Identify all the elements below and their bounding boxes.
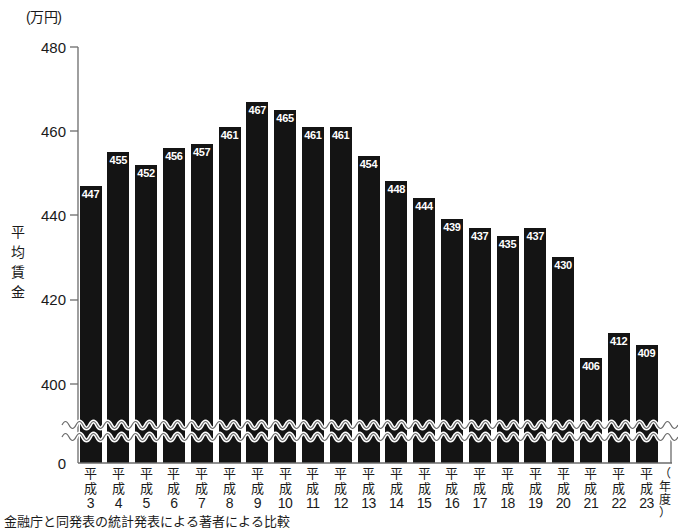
bar-22: 412: [608, 333, 630, 463]
x-tick-era-char-2: 成: [133, 481, 159, 496]
bar-15: 444: [413, 198, 435, 463]
bar-8: 461: [219, 127, 241, 463]
x-tick-era-char-1: 平: [606, 466, 632, 481]
x-tick-era-char-2: 成: [244, 481, 270, 496]
bar-23: 409: [636, 345, 658, 463]
bar-13: 454: [358, 156, 380, 463]
x-tick-era-char-2: 成: [328, 481, 354, 496]
x-axis-unit-label: （ 年 度 ）: [655, 468, 675, 520]
bar-value-label: 452: [135, 167, 157, 179]
bar-value-label: 461: [302, 129, 324, 141]
x-tick-era-char-1: 平: [522, 466, 548, 481]
y-tick-label-400: 400: [22, 377, 66, 392]
bar-value-label: 454: [358, 158, 380, 170]
x-tick-label-9: 平成9: [244, 466, 270, 511]
x-tick-era-char-2: 成: [189, 481, 215, 496]
x-tick-era-char-2: 成: [606, 481, 632, 496]
bar-value-label: 447: [80, 188, 102, 200]
x-tick-era-char-1: 平: [578, 466, 604, 481]
plot-area: 4474554524564574614674654614614544484444…: [78, 40, 674, 470]
x-tick-year-number: 16: [439, 496, 465, 511]
x-tick-label-11: 平成11: [300, 466, 326, 511]
x-tick-era-char-2: 成: [383, 481, 409, 496]
bar-value-label: 457: [191, 146, 213, 158]
bar-value-label: 437: [524, 230, 546, 242]
x-tick-year-number: 18: [495, 496, 521, 511]
x-tick-era-char-2: 成: [495, 481, 521, 496]
x-tick-year-number: 3: [78, 496, 104, 511]
bar-value-label: 461: [219, 129, 241, 141]
y-axis-title-char-1: 平: [8, 222, 28, 242]
bar-16: 439: [441, 219, 463, 463]
bar-21: 406: [580, 358, 602, 463]
x-tick-year-number: 8: [217, 496, 243, 511]
x-tick-year-number: 13: [356, 496, 382, 511]
x-tick-era-char-2: 成: [161, 481, 187, 496]
x-tick-era-char-1: 平: [161, 466, 187, 481]
y-axis-title: 平 均 賃 金: [8, 222, 28, 302]
y-axis-unit-label: (万円): [26, 6, 61, 26]
x-tick-era-char-1: 平: [550, 466, 576, 481]
x-tick-label-20: 平成20: [550, 466, 576, 511]
x-tick-year-number: 19: [522, 496, 548, 511]
x-tick-label-14: 平成14: [383, 466, 409, 511]
y-axis-title-char-2: 均: [8, 242, 28, 262]
bar-value-label: 439: [441, 221, 463, 233]
x-tick-year-number: 20: [550, 496, 576, 511]
y-tick-label-480: 480: [22, 40, 66, 55]
x-tick-label-15: 平成15: [411, 466, 437, 511]
x-tick-label-10: 平成10: [272, 466, 298, 511]
x-tick-label-8: 平成8: [217, 466, 243, 511]
x-tick-era-char-2: 成: [550, 481, 576, 496]
y-tick-label-460: 460: [22, 124, 66, 139]
x-tick-year-number: 9: [244, 496, 270, 511]
bar-10: 465: [274, 110, 296, 463]
x-tick-year-number: 15: [411, 496, 437, 511]
x-tick-label-21: 平成21: [578, 466, 604, 511]
bar-value-label: 437: [469, 230, 491, 242]
x-tick-label-22: 平成22: [606, 466, 632, 511]
bar-value-label: 435: [497, 238, 519, 250]
x-tick-era-char-1: 平: [133, 466, 159, 481]
x-tick-era-char-2: 成: [411, 481, 437, 496]
bar-18: 435: [497, 236, 519, 463]
x-tick-year-number: 6: [161, 496, 187, 511]
x-tick-era-char-1: 平: [189, 466, 215, 481]
bar-value-label: 448: [385, 183, 407, 195]
bar-value-label: 465: [274, 112, 296, 124]
x-tick-year-number: 17: [467, 496, 493, 511]
x-tick-label-4: 平成4: [105, 466, 131, 511]
x-tick-year-number: 10: [272, 496, 298, 511]
x-tick-label-3: 平成3: [78, 466, 104, 511]
x-tick-era-char-2: 成: [300, 481, 326, 496]
x-tick-year-number: 21: [578, 496, 604, 511]
y-axis-title-char-3: 賃: [8, 262, 28, 282]
bar-value-label: 444: [413, 200, 435, 212]
x-tick-year-number: 7: [189, 496, 215, 511]
bar-value-label: 406: [580, 360, 602, 372]
x-tick-era-char-1: 平: [467, 466, 493, 481]
x-tick-era-char-2: 成: [356, 481, 382, 496]
x-tick-label-17: 平成17: [467, 466, 493, 511]
chart-caption: 金融庁と同発表の統計発表による著者による比較: [4, 514, 290, 529]
x-tick-era-char-1: 平: [328, 466, 354, 481]
x-tick-year-number: 12: [328, 496, 354, 511]
bar-value-label: 456: [163, 150, 185, 162]
y-tick-label-0: 0: [22, 456, 66, 471]
y-tick-label-420: 420: [22, 292, 66, 307]
bar-value-label: 461: [330, 129, 352, 141]
bar-value-label: 430: [552, 259, 574, 271]
x-tick-era-char-1: 平: [78, 466, 104, 481]
x-tick-label-7: 平成7: [189, 466, 215, 511]
bar-19: 437: [524, 228, 546, 463]
bar-3: 447: [80, 186, 102, 463]
bar-6: 456: [163, 148, 185, 463]
x-tick-era-char-1: 平: [244, 466, 270, 481]
x-tick-era-char-1: 平: [439, 466, 465, 481]
x-axis-unit-paren-close: ）: [655, 507, 675, 520]
bar-value-label: 409: [636, 347, 658, 359]
bar-14: 448: [385, 181, 407, 463]
x-tick-era-char-2: 成: [467, 481, 493, 496]
bar-4: 455: [107, 152, 129, 463]
